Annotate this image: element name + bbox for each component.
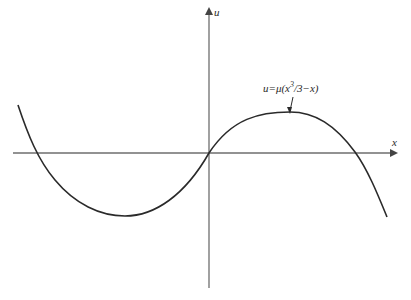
cubic-curve — [18, 105, 387, 217]
y-axis-label: u — [214, 6, 220, 18]
x-axis-label: x — [392, 136, 397, 148]
plot-canvas — [0, 0, 411, 300]
label-pointer-arrowhead — [287, 107, 292, 114]
equation-suffix: /3−x) — [294, 82, 319, 94]
equation-prefix: u=μ(x — [263, 82, 290, 94]
curve-equation-label: u=μ(x3/3−x) — [263, 80, 319, 94]
